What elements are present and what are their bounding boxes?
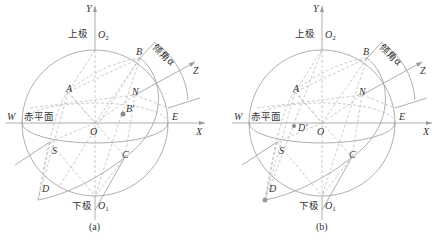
point-b-label: B bbox=[363, 47, 369, 57]
x-axis-label: X bbox=[196, 127, 202, 137]
y-axis-label: Y bbox=[313, 4, 319, 14]
o2-label: O2 bbox=[325, 30, 336, 42]
upper-pole-label: 上极 bbox=[68, 29, 88, 39]
lower-pole-label: 下极 bbox=[299, 201, 319, 211]
origin-label: O bbox=[90, 127, 97, 137]
inclined-great-circle bbox=[265, 58, 385, 200]
diagram-panel-b: Y 上极 O2 B 倾角α Z A N W 赤平面 E D′ O X S C D… bbox=[218, 0, 436, 242]
point-w-label: W bbox=[234, 112, 242, 122]
point-d-marker bbox=[263, 198, 268, 203]
z-axis-label: Z bbox=[420, 66, 426, 76]
caption-b: (b) bbox=[316, 222, 328, 232]
point-e-label: E bbox=[399, 112, 405, 122]
x-axis-label: X bbox=[423, 127, 429, 137]
origin-label: O bbox=[317, 127, 324, 137]
point-a-label: A bbox=[66, 84, 72, 94]
z-axis bbox=[135, 62, 195, 95]
point-s-label: S bbox=[52, 146, 57, 156]
o2-label: O2 bbox=[98, 30, 109, 42]
projection-point-label: B′ bbox=[126, 104, 134, 114]
point-n-label: N bbox=[132, 87, 139, 97]
point-c-label: C bbox=[122, 150, 129, 160]
point-b-label: B bbox=[136, 47, 142, 57]
upper-pole-label: 上极 bbox=[295, 29, 315, 39]
o1-label: O1 bbox=[98, 201, 109, 213]
z-axis-label: Z bbox=[193, 66, 199, 76]
z-axis bbox=[362, 62, 422, 95]
point-c-label: C bbox=[349, 150, 356, 160]
point-a-label: A bbox=[293, 84, 299, 94]
o1-label: O1 bbox=[325, 201, 336, 213]
equatorial-plane-label: 赤平面 bbox=[24, 112, 54, 122]
projection-point-label: D′ bbox=[298, 123, 307, 133]
point-e-label: E bbox=[172, 112, 178, 122]
equatorial-plane-label: 赤平面 bbox=[251, 112, 281, 122]
point-n-label: N bbox=[359, 87, 366, 97]
point-d-label: D bbox=[269, 184, 276, 194]
diagram-panel-a: Y 上极 O2 B 倾角α Z A N B′ W 赤平面 E O X S C D… bbox=[0, 0, 218, 242]
lower-pole-label: 下极 bbox=[72, 201, 92, 211]
projection-point-b-prime bbox=[121, 112, 126, 117]
inclined-great-circle bbox=[38, 58, 158, 200]
point-s-label: S bbox=[279, 146, 284, 156]
caption-a: (a) bbox=[89, 222, 100, 232]
point-w-label: W bbox=[7, 112, 15, 122]
y-axis-label: Y bbox=[86, 4, 92, 14]
point-d-label: D bbox=[42, 184, 49, 194]
projection-point-d-prime bbox=[292, 124, 296, 128]
